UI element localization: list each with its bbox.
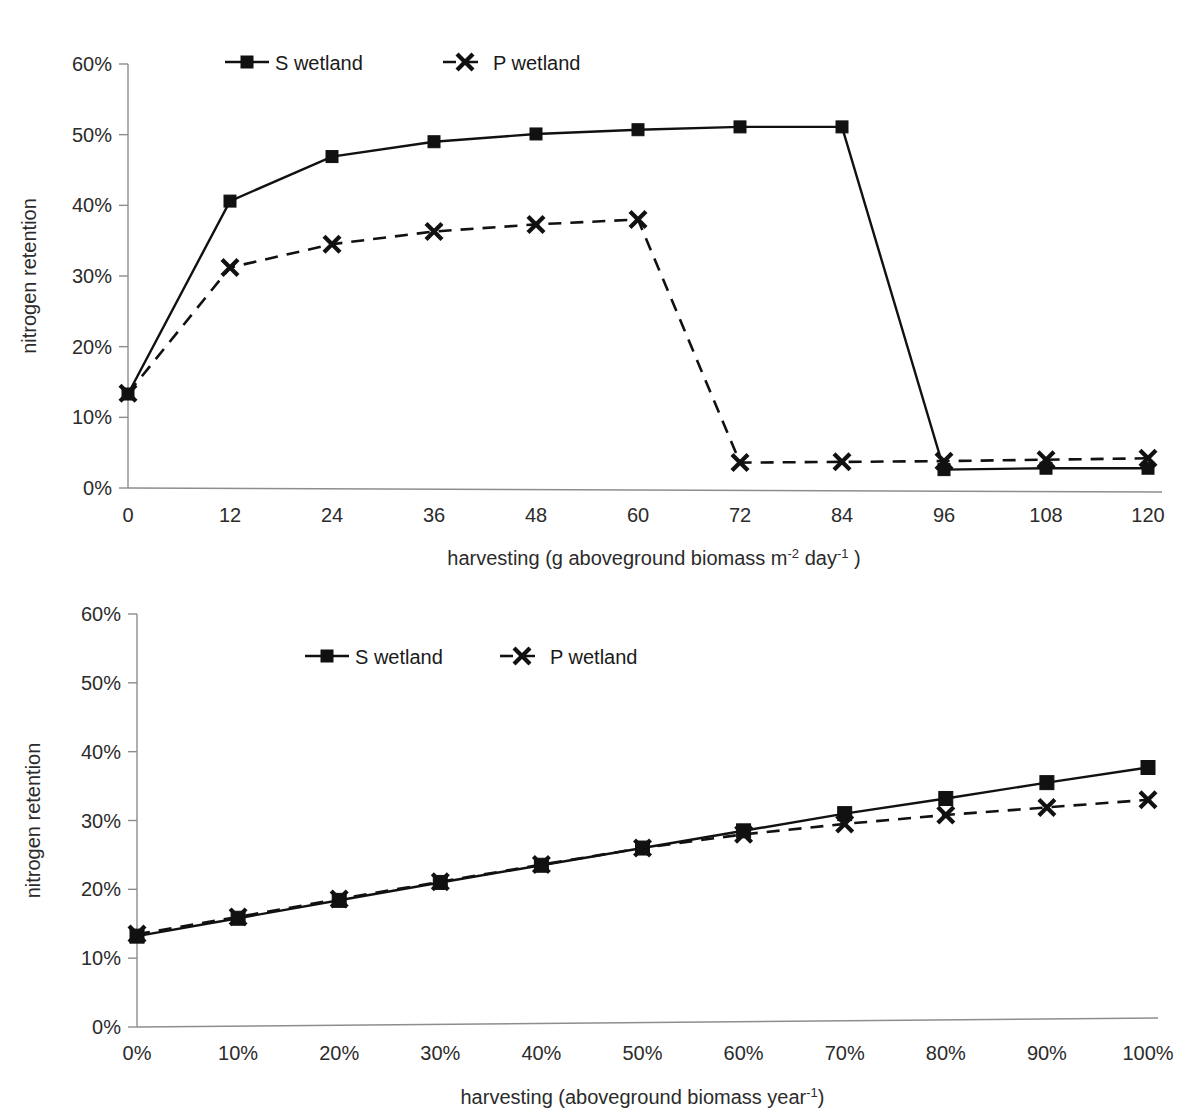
x-tick-group: 0%10%20%30%40%50%60%70%80%90%100%	[123, 1042, 1174, 1064]
x-tick-label: 70%	[825, 1042, 865, 1064]
x-tick-label: 40%	[521, 1042, 561, 1064]
data-point-marker-square	[321, 650, 333, 662]
data-point-marker-square	[241, 56, 253, 68]
y-tick-group: 0%10%20%30%40%50%60%	[81, 603, 137, 1038]
figure-two-panel-line-charts: 0%10%20%30%40%50%60%01224364860728496108…	[0, 0, 1198, 1115]
y-axis-title: nitrogen retention	[18, 198, 40, 354]
y-tick-label: 50%	[81, 672, 121, 694]
data-point-marker-square	[326, 151, 338, 163]
x-tick-label: 60%	[724, 1042, 764, 1064]
data-point-marker-square	[836, 121, 848, 133]
legend-label: S wetland	[355, 646, 443, 668]
top-chart-svg: 0%10%20%30%40%50%60%01224364860728496108…	[0, 0, 1198, 575]
y-tick-label: 0%	[83, 477, 112, 499]
legend-label: P wetland	[550, 646, 637, 668]
legend-label: P wetland	[493, 52, 580, 74]
chart-panel-bottom: 0%10%20%30%40%50%60%0%10%20%30%40%50%60%…	[0, 575, 1198, 1115]
y-axis-title: nitrogen retention	[22, 743, 44, 899]
x-tick-label: 80%	[926, 1042, 966, 1064]
x-axis-baseline	[137, 1018, 1158, 1027]
y-tick-label: 40%	[81, 741, 121, 763]
x-tick-group: 01224364860728496108120	[122, 504, 1164, 526]
y-tick-label: 60%	[81, 603, 121, 625]
x-tick-label: 0%	[123, 1042, 152, 1064]
series-p-wetland	[120, 211, 1156, 470]
x-tick-label: 20%	[319, 1042, 359, 1064]
axis-group	[128, 64, 1162, 492]
y-tick-label: 60%	[72, 53, 112, 75]
x-tick-label: 12	[219, 504, 241, 526]
x-tick-label: 100%	[1122, 1042, 1173, 1064]
y-tick-label: 20%	[81, 878, 121, 900]
data-point-marker-square	[939, 791, 953, 805]
data-point-marker-square	[428, 136, 440, 148]
x-tick-label: 60	[627, 504, 649, 526]
legend-item-s-wetland[interactable]: S wetland	[225, 52, 363, 74]
series-line	[128, 127, 1148, 470]
bottom-chart-svg: 0%10%20%30%40%50%60%0%10%20%30%40%50%60%…	[0, 575, 1198, 1115]
x-tick-label: 36	[423, 504, 445, 526]
y-tick-label: 10%	[72, 406, 112, 428]
x-tick-label: 108	[1029, 504, 1062, 526]
legend-item-p-wetland[interactable]: P wetland	[443, 52, 580, 74]
series-p-wetland	[129, 792, 1156, 942]
x-tick-label: 0	[122, 504, 133, 526]
x-tick-label: 50%	[622, 1042, 662, 1064]
x-tick-label: 120	[1131, 504, 1164, 526]
series-line	[128, 220, 1148, 463]
legend-label: S wetland	[275, 52, 363, 74]
x-tick-label: 24	[321, 504, 343, 526]
data-point-marker-square	[530, 128, 542, 140]
data-point-marker-square	[632, 124, 644, 136]
y-tick-label: 10%	[81, 947, 121, 969]
data-point-marker-square	[224, 195, 236, 207]
y-tick-label: 0%	[92, 1016, 121, 1038]
legend: S wetlandP wetland	[225, 52, 580, 74]
legend-item-p-wetland[interactable]: P wetland	[500, 646, 637, 668]
series-s-wetland	[122, 121, 1154, 476]
data-point-marker-square	[734, 121, 746, 133]
x-axis-title: harvesting (aboveground biomass year-1)	[461, 1085, 825, 1108]
axis-group	[137, 614, 1158, 1027]
x-tick-label: 96	[933, 504, 955, 526]
x-tick-label: 10%	[218, 1042, 258, 1064]
series-line	[137, 800, 1148, 934]
chart-panel-top: 0%10%20%30%40%50%60%01224364860728496108…	[0, 0, 1198, 575]
data-point-marker-square	[1141, 760, 1155, 774]
y-tick-label: 20%	[72, 336, 112, 358]
x-axis-title: harvesting (g aboveground biomass m-2 da…	[447, 546, 860, 569]
y-tick-label: 30%	[72, 265, 112, 287]
legend-item-s-wetland[interactable]: S wetland	[305, 646, 443, 668]
x-tick-label: 90%	[1027, 1042, 1067, 1064]
y-tick-group: 0%10%20%30%40%50%60%	[72, 53, 128, 499]
y-tick-label: 30%	[81, 810, 121, 832]
y-tick-label: 40%	[72, 194, 112, 216]
series-s-wetland	[130, 760, 1155, 943]
x-tick-label: 30%	[420, 1042, 460, 1064]
x-tick-label: 72	[729, 504, 751, 526]
data-point-marker-square	[1040, 776, 1054, 790]
x-axis-baseline	[128, 488, 1162, 492]
x-tick-label: 48	[525, 504, 547, 526]
x-tick-label: 84	[831, 504, 853, 526]
legend: S wetlandP wetland	[305, 646, 637, 668]
y-tick-label: 50%	[72, 124, 112, 146]
